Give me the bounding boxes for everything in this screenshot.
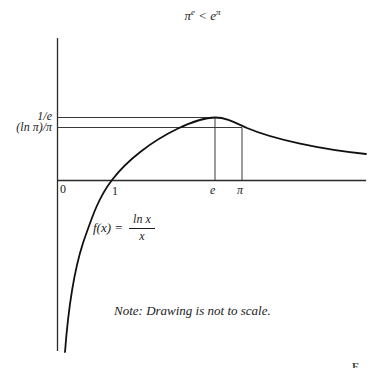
math-figure: πe < eπ 1/e (ln π)/π 0 1 e π f(x) = ln x… <box>0 0 380 368</box>
y-axis-label-lnpi-over-pi: (ln π)/π <box>0 121 52 133</box>
x-axis-label-one: 1 <box>112 185 118 197</box>
title-exp-pi: π <box>216 7 221 17</box>
function-fraction-denominator: x <box>139 229 144 244</box>
function-fraction: ln x x <box>129 213 155 244</box>
function-fraction-numerator: ln x <box>129 213 155 229</box>
x-axis-label-e: e <box>210 184 215 196</box>
x-axis-label-pi: π <box>237 184 243 196</box>
function-label-prefix: f(x) = <box>93 220 123 236</box>
figure-caption-fragment: F <box>352 360 359 368</box>
function-label: f(x) = ln x x <box>93 213 155 244</box>
figure-title: πe < eπ <box>140 9 265 22</box>
x-axis-label-origin: 0 <box>60 183 66 195</box>
title-relation: < <box>195 8 210 23</box>
not-to-scale-note: Note: Drawing is not to scale. <box>114 304 271 317</box>
